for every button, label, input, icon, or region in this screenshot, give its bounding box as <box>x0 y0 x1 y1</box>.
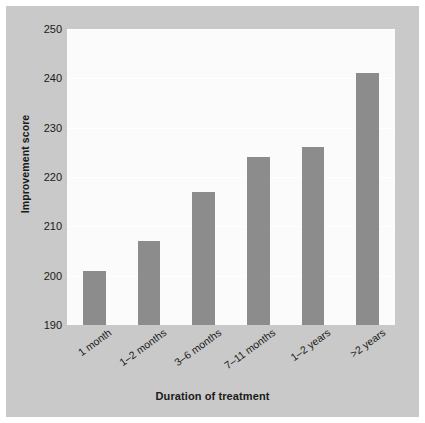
plot-area: 190200210220230240250 1 month1–2 months3… <box>67 29 395 325</box>
y-axis-tick-label: 210 <box>44 220 62 232</box>
y-axis-title: Improvement score <box>19 79 31 249</box>
bar[interactable] <box>356 73 379 325</box>
x-axis-tick-label-text: 3–6 months <box>172 325 225 368</box>
y-axis-tick-label: 250 <box>44 23 62 35</box>
y-axis-tick-label: 220 <box>44 171 62 183</box>
x-axis-tick-label-text: 7–11 months <box>222 325 279 371</box>
y-axis-tick-label: 240 <box>44 72 62 84</box>
chart-figure: Improvement score 190200210220230240250 … <box>0 0 425 423</box>
figure-canvas: Improvement score 190200210220230240250 … <box>6 6 419 417</box>
x-axis-tick-label-text: 1 month <box>76 325 115 358</box>
bar[interactable] <box>83 271 106 325</box>
x-axis-title: Duration of treatment <box>6 390 419 402</box>
x-axis-tick-label-text: 1–2 years <box>288 325 334 363</box>
bar-series <box>67 29 395 325</box>
y-axis-tick-label: 200 <box>44 270 62 282</box>
x-axis-tick-label-text: 1–2 months <box>117 325 170 368</box>
x-axis-tick-label-text: >2 years <box>347 325 388 360</box>
y-axis-tick-label: 190 <box>44 319 62 331</box>
y-axis-tick-label: 230 <box>44 122 62 134</box>
